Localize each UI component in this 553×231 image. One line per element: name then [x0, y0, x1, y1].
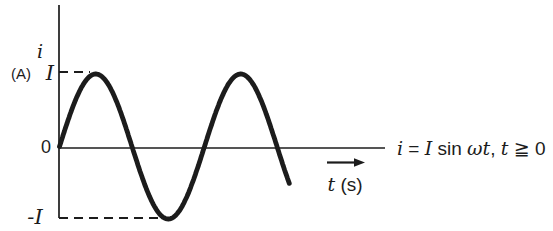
sine-curve	[60, 74, 290, 219]
y-tick-label-zero: 0	[41, 138, 51, 156]
equation-omega-t: ωt	[467, 137, 490, 159]
equation-annotation: i = I sin ωt, t ≧ 0	[397, 137, 546, 160]
equation-comma: ,	[490, 138, 501, 159]
x-axis-label-unit: (s)	[335, 174, 362, 195]
equation-condition: ≧ 0	[508, 138, 545, 159]
equation-sin: sin	[432, 138, 467, 159]
x-axis-label: t (s)	[327, 175, 362, 194]
equation-equals: =	[403, 138, 425, 159]
plot-canvas	[0, 0, 553, 231]
figure-sine-wave: i (A) I 0 -I t (s) i = I sin ωt, t ≧ 0	[0, 0, 553, 231]
time-direction-arrowhead-icon	[354, 158, 365, 166]
y-axis-symbol: i	[37, 42, 43, 61]
x-axis-label-variable: t	[327, 173, 335, 195]
y-tick-label-negative-I: -I	[27, 207, 42, 228]
y-tick-label-positive-I: I	[46, 63, 54, 84]
y-axis-unit: (A)	[11, 66, 31, 81]
